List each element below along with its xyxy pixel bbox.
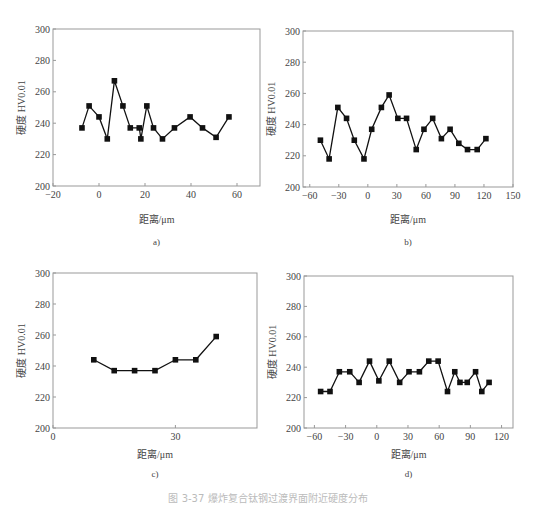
y-tick-label: 300 <box>285 26 300 37</box>
data-point-marker <box>173 357 179 363</box>
x-tick-label: 150 <box>506 190 521 201</box>
data-point-marker <box>426 358 432 364</box>
data-point-marker <box>327 389 333 395</box>
y-tick-label: 240 <box>35 118 50 129</box>
y-axis-label: 硬度 HV0.01 <box>15 80 27 134</box>
data-point-marker <box>200 125 206 131</box>
chart-panel-a: 200220240260280300−200204060硬度 HV0.01距离/… <box>15 24 260 248</box>
x-tick-label: 30 <box>170 431 180 442</box>
data-point-marker <box>132 368 138 374</box>
x-tick-label: 60 <box>232 189 242 200</box>
plot-frame <box>53 273 257 428</box>
chart-panel-d: 200220240260280300−60−300306090120硬度 HV0… <box>266 271 513 480</box>
y-tick-label: 200 <box>286 423 301 434</box>
x-tick-label: −60 <box>302 190 318 201</box>
x-tick-label: 30 <box>403 431 413 442</box>
x-tick-label: 0 <box>365 190 370 201</box>
x-axis-label: 距离/μm <box>137 448 173 460</box>
x-tick-label: 90 <box>450 190 460 201</box>
plot-frame <box>53 29 260 186</box>
x-tick-label: 20 <box>140 189 150 200</box>
data-point-marker <box>379 105 385 111</box>
data-point-marker <box>213 334 219 340</box>
data-point-marker <box>465 147 471 153</box>
data-point-marker <box>445 389 451 395</box>
x-axis-label: 距离/μm <box>390 213 426 225</box>
y-axis-label: 硬度 HV0.01 <box>265 82 277 136</box>
x-tick-label: 40 <box>186 189 196 200</box>
data-point-marker <box>151 125 157 131</box>
x-tick-label: 0 <box>51 431 56 442</box>
y-axis-label: 硬度 HV0.01 <box>15 323 27 377</box>
x-tick-label: 90 <box>465 431 475 442</box>
data-point-marker <box>464 380 470 386</box>
data-point-marker <box>136 125 142 131</box>
data-point-marker <box>152 368 158 374</box>
data-point-marker <box>367 358 373 364</box>
y-tick-label: 240 <box>286 362 301 373</box>
y-tick-label: 300 <box>35 24 50 35</box>
panel-label: b) <box>404 237 412 247</box>
y-tick-label: 220 <box>285 150 300 161</box>
data-point-marker <box>452 369 458 375</box>
x-axis-label: 距离/μm <box>139 213 175 225</box>
data-point-marker <box>417 369 423 375</box>
data-point-marker <box>369 126 375 132</box>
data-point-marker <box>356 380 362 386</box>
x-tick-label: 120 <box>494 431 509 442</box>
x-tick-label: −20 <box>45 189 61 200</box>
data-line <box>94 337 216 371</box>
data-point-marker <box>96 114 102 120</box>
data-point-marker <box>112 78 118 84</box>
data-point-marker <box>386 92 392 98</box>
data-point-marker <box>406 369 412 375</box>
data-point-marker <box>79 125 85 131</box>
data-point-marker <box>456 141 462 147</box>
data-point-marker <box>160 136 166 142</box>
data-point-marker <box>479 389 485 395</box>
data-point-marker <box>474 147 480 153</box>
data-point-marker <box>213 135 219 141</box>
y-tick-label: 220 <box>286 392 301 403</box>
data-point-marker <box>335 105 341 111</box>
y-tick-label: 280 <box>35 55 50 66</box>
data-point-marker <box>447 126 453 132</box>
data-point-marker <box>486 380 492 386</box>
data-point-marker <box>421 126 427 132</box>
data-point-marker <box>473 369 479 375</box>
data-point-marker <box>344 116 350 122</box>
data-point-marker <box>483 136 489 142</box>
data-point-marker <box>457 380 463 386</box>
data-point-marker <box>318 137 324 143</box>
y-tick-label: 200 <box>285 182 300 193</box>
y-tick-label: 220 <box>35 149 50 160</box>
y-tick-label: 280 <box>286 301 301 312</box>
data-point-marker <box>318 389 324 395</box>
panel-label: c) <box>152 469 159 479</box>
data-point-marker <box>413 147 419 153</box>
data-point-marker <box>430 116 436 122</box>
y-tick-label: 300 <box>286 271 301 282</box>
data-point-marker <box>127 125 133 131</box>
data-point-marker <box>226 114 232 120</box>
y-tick-label: 220 <box>35 392 50 403</box>
data-point-marker <box>404 116 410 122</box>
x-tick-label: −30 <box>331 190 347 201</box>
chart-panel-c: 200220240260280300030硬度 HV0.01距离/μmc) <box>15 268 257 480</box>
plot-frame <box>303 31 513 187</box>
panel-label: a) <box>153 237 160 247</box>
data-line <box>321 361 490 391</box>
data-point-marker <box>386 358 392 364</box>
data-point-marker <box>104 136 110 142</box>
data-point-marker <box>435 358 441 364</box>
y-tick-label: 260 <box>285 88 300 99</box>
plot-frame <box>304 276 513 428</box>
x-tick-label: 0 <box>374 431 379 442</box>
x-tick-label: 120 <box>476 190 491 201</box>
data-point-marker <box>193 357 199 363</box>
y-tick-label: 260 <box>286 331 301 342</box>
data-point-marker <box>397 380 403 386</box>
x-tick-label: −30 <box>338 431 354 442</box>
x-axis-label: 距离/μm <box>391 448 427 460</box>
